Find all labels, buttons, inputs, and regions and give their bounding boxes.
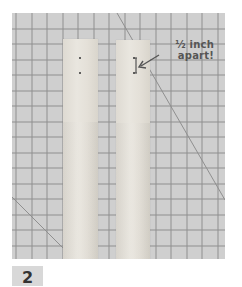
step-number: 2 xyxy=(12,268,43,287)
annotation-line-2: apart! xyxy=(160,50,214,61)
annotation-line-1: ½ inch xyxy=(160,39,214,50)
cutting-mat-photo: ½ inch apart! xyxy=(12,13,225,259)
measurement-annotation: ½ inch apart! xyxy=(160,39,214,61)
arrow-icon xyxy=(139,55,159,68)
bracket-icon xyxy=(134,58,137,73)
step-number-badge: 2 xyxy=(12,266,43,286)
